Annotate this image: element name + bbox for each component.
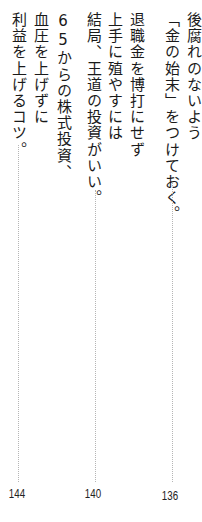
- table-of-contents: 後腐れのないよう 「金の始末」をつけておく。 136 退職金を博打にせず 上手に…: [0, 0, 202, 522]
- toc-entry-title-line: 上手に殖やすには: [105, 12, 123, 142]
- toc-entry-title-line: 退職金を博打にせず: [127, 12, 145, 158]
- page-number: 144: [6, 486, 29, 501]
- page-number: 140: [82, 486, 105, 501]
- toc-entry-title-line: 利益を上げるコツ。: [9, 12, 27, 158]
- dotted-leader: [95, 190, 96, 482]
- page-number: 136: [159, 488, 182, 503]
- dotted-leader: [18, 145, 19, 482]
- toc-entry-title-line: 血圧を上げずに: [31, 12, 49, 125]
- toc-entry-title-line: 結局、王道の投資がいい。: [84, 12, 102, 206]
- toc-entry-title-line: 「金の始末」をつけておく。: [162, 12, 180, 223]
- dotted-leader: [172, 182, 173, 482]
- toc-entry-title-line: 後腐れのないよう: [184, 12, 202, 142]
- toc-entry-title-line: 65からの株式投資、: [54, 12, 72, 180]
